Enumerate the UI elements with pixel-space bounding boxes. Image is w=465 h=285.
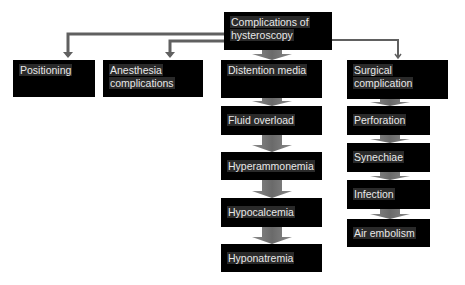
node-label: Air embolism <box>353 227 416 239</box>
node-label: Perforation <box>353 114 406 126</box>
node-infection: Infection <box>347 180 430 209</box>
node-perforation: Perforation <box>347 106 430 135</box>
node-hypocalcemia: Hypocalcemia <box>221 198 322 227</box>
node-label-line-1: Anesthesia <box>109 64 163 76</box>
node-label: Hypocalcemia <box>227 206 295 218</box>
node-air-embolism: Air embolism <box>347 219 430 247</box>
node-label-line-2: complication <box>353 77 413 89</box>
node-fluid-overload: Fluid overload <box>221 106 322 135</box>
node-surgical-complication: Surgical complication <box>347 60 448 99</box>
node-positioning: Positioning <box>13 60 95 97</box>
root-node: Complications of hysteroscopy <box>224 12 332 50</box>
node-label-line-2: complications <box>109 77 175 89</box>
node-label: Positioning <box>19 64 72 76</box>
node-anesthesia: Anesthesia complications <box>103 60 203 97</box>
node-label-line-1: Surgical <box>353 64 393 76</box>
node-label: Synechiae <box>353 151 404 163</box>
root-line-2: hysteroscopy <box>230 29 294 41</box>
node-distention-media: Distention media <box>221 60 322 98</box>
node-label: Fluid overload <box>227 114 295 126</box>
node-hyperammonemia: Hyperammonemia <box>221 152 322 180</box>
node-synechiae: Synechiae <box>347 143 430 172</box>
node-hyponatremia: Hyponatremia <box>221 244 322 272</box>
root-line-1: Complications of <box>230 16 310 28</box>
node-label: Distention media <box>227 64 307 76</box>
node-label: Hyperammonemia <box>227 160 315 172</box>
node-label: Hyponatremia <box>227 252 294 264</box>
node-label: Infection <box>353 188 395 200</box>
